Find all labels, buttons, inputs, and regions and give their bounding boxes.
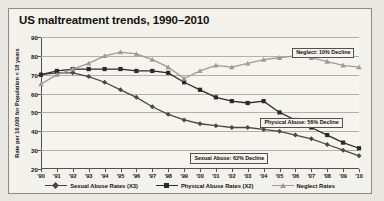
x-tick-label: '00 — [196, 173, 204, 179]
page-title: US maltreatment trends, 1990–2010 — [19, 14, 209, 26]
legend-swatch-icon — [156, 182, 178, 189]
x-tick-label: '03 — [244, 173, 252, 179]
y-tick-label: 50 — [31, 109, 38, 116]
x-tick-label: '06 — [292, 173, 300, 179]
y-tick-label: 30 — [31, 147, 38, 154]
y-tick-label: 20 — [31, 166, 38, 173]
x-tick-mark — [359, 169, 360, 172]
x-tick-mark — [216, 169, 217, 172]
y-tick-label: 70 — [31, 71, 38, 78]
legend-label: Physical Abuse Rates (X2) — [181, 183, 254, 189]
x-tick-label: '09 — [339, 173, 347, 179]
x-tick-mark — [57, 169, 58, 172]
x-tick-mark — [168, 169, 169, 172]
x-tick-label: '04 — [260, 173, 268, 179]
legend-item-3[interactable]: Neglect Rates — [272, 182, 335, 189]
legend-label: Sexual Abuse Rates (X3) — [70, 183, 138, 189]
x-tick-mark — [152, 169, 153, 172]
x-tick-mark — [184, 169, 185, 172]
x-tick-label: '01 — [212, 173, 220, 179]
x-tick-label: '07 — [308, 173, 316, 179]
x-tick-label: '93 — [85, 173, 93, 179]
x-tick-label: '10 — [355, 173, 363, 179]
legend-item-2[interactable]: Physical Abuse Rates (X2) — [156, 182, 254, 189]
x-tick-mark — [295, 169, 296, 172]
x-tick-label: '02 — [228, 173, 236, 179]
x-tick-mark — [311, 169, 312, 172]
annotation-label: Physical Abuse: 56% Decline — [260, 118, 342, 128]
plot-area: Rate per 10,000 for Population < 18 year… — [41, 37, 359, 169]
y-tick-label: 80 — [31, 52, 38, 59]
x-tick-mark — [264, 169, 265, 172]
x-tick-label: '08 — [323, 173, 331, 179]
x-tick-mark — [327, 169, 328, 172]
legend-label: Neglect Rates — [297, 183, 335, 189]
x-tick-mark — [73, 169, 74, 172]
x-tick-label: '94 — [101, 173, 109, 179]
x-tick-label: '05 — [276, 173, 284, 179]
x-tick-mark — [200, 169, 201, 172]
x-tick-label: '97 — [149, 173, 157, 179]
legend-swatch-icon — [272, 182, 294, 189]
x-tick-mark — [89, 169, 90, 172]
y-tick-label: 40 — [31, 128, 38, 135]
legend-swatch-icon — [45, 182, 67, 189]
x-tick-label: '99 — [180, 173, 188, 179]
x-tick-label: '96 — [133, 173, 141, 179]
x-tick-mark — [280, 169, 281, 172]
x-tick-label: '95 — [117, 173, 125, 179]
series-1 — [39, 70, 362, 158]
x-tick-mark — [105, 169, 106, 172]
x-tick-label: '98 — [164, 173, 172, 179]
y-axis-label: Rate per 10,000 for Population < 18 year… — [14, 48, 20, 157]
x-tick-mark — [232, 169, 233, 172]
annotation-label: Sexual Abuse: 62% Decline — [190, 153, 268, 163]
annotation-label: Neglect: 10% Decline — [292, 48, 354, 58]
x-tick-mark — [41, 169, 42, 172]
y-tick-label: 90 — [31, 34, 38, 41]
x-tick-mark — [121, 169, 122, 172]
x-tick-mark — [343, 169, 344, 172]
x-tick-mark — [136, 169, 137, 172]
x-tick-label: '90 — [37, 173, 45, 179]
legend-item-1[interactable]: Sexual Abuse Rates (X3) — [45, 182, 138, 189]
x-tick-mark — [248, 169, 249, 172]
x-tick-label: '92 — [69, 173, 77, 179]
x-tick-label: '91 — [53, 173, 61, 179]
y-tick-label: 60 — [31, 90, 38, 97]
chart-legend: Sexual Abuse Rates (X3)Physical Abuse Ra… — [9, 182, 371, 189]
chart-figure: US maltreatment trends, 1990–2010 Rate p… — [8, 8, 372, 194]
